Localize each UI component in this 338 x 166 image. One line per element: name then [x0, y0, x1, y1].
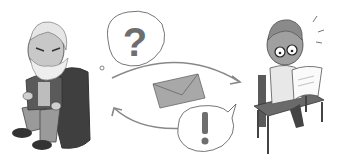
old-man-figure: [12, 22, 90, 150]
illustration: ?: [0, 0, 338, 166]
exclamation-icon: [202, 112, 208, 134]
speech-bubble: [178, 104, 236, 152]
question-mark-icon: ?: [123, 20, 147, 64]
thought-bubble: ?: [100, 11, 165, 70]
young-man-figure: [254, 16, 324, 154]
envelope-icon: [153, 74, 205, 108]
arrow-to-left: [114, 108, 188, 129]
